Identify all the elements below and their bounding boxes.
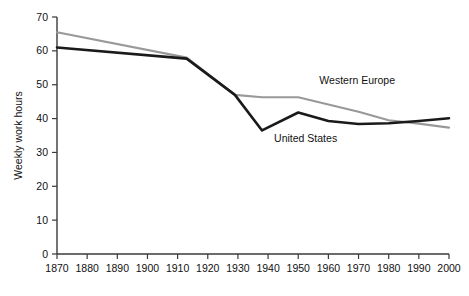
x-tick-label-1880: 1880 xyxy=(75,262,99,274)
x-axis: 1870188018901900191019201930194019501960… xyxy=(45,254,461,274)
chart-canvas: 010203040506070 187018801890190019101920… xyxy=(0,0,469,296)
y-axis: 010203040506070 xyxy=(36,11,57,260)
x-tick-label-1960: 1960 xyxy=(317,262,341,274)
y-tick-label-0: 0 xyxy=(42,248,48,260)
x-tick-label-1950: 1950 xyxy=(287,262,311,274)
series-line-united-states xyxy=(57,47,449,130)
x-tick-label-2000: 2000 xyxy=(437,262,461,274)
y-axis-title: Weekly work hours xyxy=(12,91,24,180)
x-tick-label-1940: 1940 xyxy=(256,262,280,274)
x-tick-label-1990: 1990 xyxy=(407,262,431,274)
x-tick-label-1970: 1970 xyxy=(347,262,371,274)
weekly-work-hours-chart: 010203040506070 187018801890190019101920… xyxy=(0,0,469,296)
y-tick-label-20: 20 xyxy=(36,180,48,192)
x-tick-label-1920: 1920 xyxy=(196,262,220,274)
x-tick-label-1910: 1910 xyxy=(166,262,190,274)
axis-titles: Weekly work hours xyxy=(12,91,24,180)
y-tick-label-30: 30 xyxy=(36,146,48,158)
x-tick-label-1980: 1980 xyxy=(377,262,401,274)
x-tick-label-1870: 1870 xyxy=(45,262,69,274)
annotation-western-europe: Western Europe xyxy=(319,74,395,86)
annotation-united-states: United States xyxy=(274,132,337,144)
x-tick-label-1890: 1890 xyxy=(106,262,130,274)
y-tick-label-70: 70 xyxy=(36,11,48,23)
series-annotations: Western EuropeUnited States xyxy=(274,74,395,144)
y-tick-label-40: 40 xyxy=(36,112,48,124)
y-tick-label-50: 50 xyxy=(36,78,48,90)
y-tick-label-60: 60 xyxy=(36,44,48,56)
y-tick-label-10: 10 xyxy=(36,214,48,226)
x-tick-label-1930: 1930 xyxy=(226,262,250,274)
x-tick-label-1900: 1900 xyxy=(136,262,160,274)
